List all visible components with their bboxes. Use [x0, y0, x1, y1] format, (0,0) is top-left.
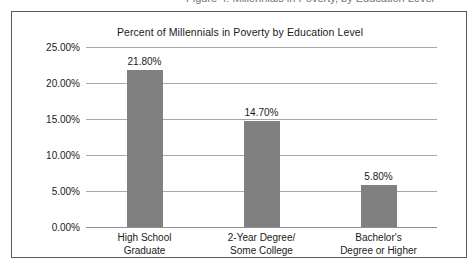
y-axis-tick-label: 20.00%: [46, 78, 80, 89]
x-axis-category-label: High SchoolGraduate: [89, 232, 201, 257]
bar-value-label: 14.70%: [245, 107, 279, 118]
caption-fragment: Figure 4: Millennials in Poverty, by Edu…: [0, 0, 475, 9]
chart-title: Percent of Millennials in Poverty by Edu…: [12, 26, 468, 38]
chart-frame: Percent of Millennials in Poverty by Edu…: [11, 11, 467, 258]
bar-value-label: 21.80%: [128, 56, 162, 67]
y-axis-tick-label: 5.00%: [52, 186, 80, 197]
bar[interactable]: 21.80%: [127, 70, 163, 227]
x-axis-category-label: 2-Year Degree/Some College: [206, 232, 318, 257]
x-axis-category-label-line: Degree or Higher: [323, 245, 435, 258]
x-axis-category-label-line: High School: [89, 232, 201, 245]
y-axis-tick-label: 25.00%: [46, 42, 80, 53]
y-axis-tick-label: 15.00%: [46, 114, 80, 125]
y-axis-tick-label: 0.00%: [52, 222, 80, 233]
bar[interactable]: 14.70%: [244, 121, 280, 227]
bar-value-label: 5.80%: [364, 171, 392, 182]
x-axis-category-label: Bachelor'sDegree or Higher: [323, 232, 435, 257]
x-axis-category-label-line: 2-Year Degree/: [206, 232, 318, 245]
x-axis-category-label-line: Bachelor's: [323, 232, 435, 245]
plot-area: 0.00%5.00%10.00%15.00%20.00%25.00%21.80%…: [86, 47, 437, 227]
gridline-0-00%: [86, 227, 437, 228]
caption-fragment-text: Figure 4: Millennials in Poverty, by Edu…: [186, 0, 434, 4]
y-axis-tick-label: 10.00%: [46, 150, 80, 161]
x-axis-category-label-line: Some College: [206, 245, 318, 258]
x-axis-category-label-line: Graduate: [89, 245, 201, 258]
bar[interactable]: 5.80%: [361, 185, 397, 227]
gridline-25-00%: [86, 47, 437, 48]
